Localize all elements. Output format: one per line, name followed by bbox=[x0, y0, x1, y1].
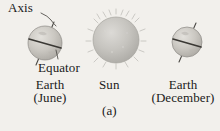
earth-december-body bbox=[172, 23, 202, 62]
earth-december-label-line2: (December) bbox=[150, 91, 216, 104]
earth-june-body bbox=[28, 22, 62, 65]
figure-caption: (a) bbox=[102, 104, 117, 117]
earth-june-label-line2: (June) bbox=[26, 91, 74, 104]
earth-december-label: Earth (December) bbox=[150, 78, 216, 105]
sun-label: Sun bbox=[99, 78, 120, 91]
earth-seasons-diagram: Axis Equator Earth (June) Sun Earth (Dec… bbox=[0, 0, 220, 131]
earth-june-label: Earth (June) bbox=[26, 78, 74, 105]
sun-body bbox=[86, 9, 146, 69]
equator-label: Equator bbox=[38, 61, 80, 74]
earth-december-disc bbox=[172, 27, 202, 57]
axis-leader-line bbox=[41, 13, 56, 26]
axis-label: Axis bbox=[8, 1, 33, 14]
sun-disc bbox=[93, 17, 139, 63]
